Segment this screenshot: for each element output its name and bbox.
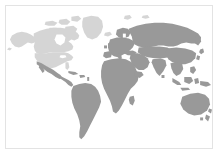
region-lesser-antilles[interactable] — [87, 77, 89, 81]
region-tasmania[interactable] — [200, 117, 203, 120]
world-map-widget — [0, 0, 220, 163]
map-frame-border — [5, 5, 213, 149]
baltic-sea — [123, 34, 126, 38]
region-sri-lanka[interactable] — [161, 75, 164, 78]
world-map-svg[interactable] — [6, 6, 212, 148]
region-korea[interactable] — [192, 54, 195, 58]
region-ireland[interactable] — [104, 45, 107, 48]
